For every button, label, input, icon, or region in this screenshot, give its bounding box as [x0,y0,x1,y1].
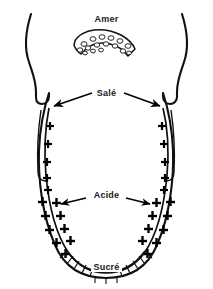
zone-label-sucre-text: Sucré [91,262,121,272]
zone-label-acide-text: Acide [92,190,122,200]
zone-label-sale-text: Salé [95,88,118,98]
tongue-outer-outline [26,14,187,278]
zone-label-acide: Acide [0,190,213,200]
zone-label-sale: Salé [0,88,213,98]
tongue-diagram-svg [0,0,213,289]
tongue-taste-map-figure: Amer Salé Acide Sucré [0,0,213,289]
zone-label-amer: Amer [0,14,213,24]
zone-label-amer-text: Amer [93,14,121,24]
zone-label-sucre: Sucré [0,262,213,272]
tongue-outline-group [26,14,187,278]
